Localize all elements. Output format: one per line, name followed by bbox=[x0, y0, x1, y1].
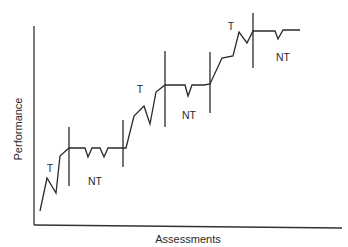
phase-boundaries bbox=[69, 13, 253, 186]
x-axis bbox=[34, 225, 342, 228]
training-phase-label: T bbox=[137, 83, 144, 95]
non-training-phase-label: NT bbox=[88, 175, 103, 187]
training-phase-label: T bbox=[228, 20, 235, 32]
y-axis-title: Performance bbox=[12, 98, 24, 161]
performance-diagram: TNTTNTTNT Assessments Performance bbox=[0, 0, 348, 247]
non-training-phase-label: NT bbox=[182, 109, 197, 121]
non-training-phase-label: NT bbox=[276, 51, 291, 63]
training-phase-label: T bbox=[47, 162, 54, 174]
phase-annotations: TNTTNTTNT bbox=[47, 20, 291, 187]
performance-line bbox=[40, 30, 300, 211]
x-axis-title: Assessments bbox=[155, 233, 221, 245]
